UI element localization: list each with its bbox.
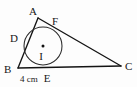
label-vertex-c: C [125,60,132,72]
label-measure-be: 4 cm [20,74,38,84]
label-vertex-a: A [29,5,37,17]
label-touch-point-d: D [10,32,18,44]
label-incenter-i: I [39,50,43,62]
incenter-point [42,45,45,48]
triangle-incircle-diagram: A B C D E F I 4 cm [0,0,137,87]
label-vertex-b: B [4,63,11,75]
label-touch-point-f: F [52,15,58,27]
label-touch-point-e: E [44,72,51,84]
geometry-figure: A B C D E F I 4 cm [0,0,137,87]
